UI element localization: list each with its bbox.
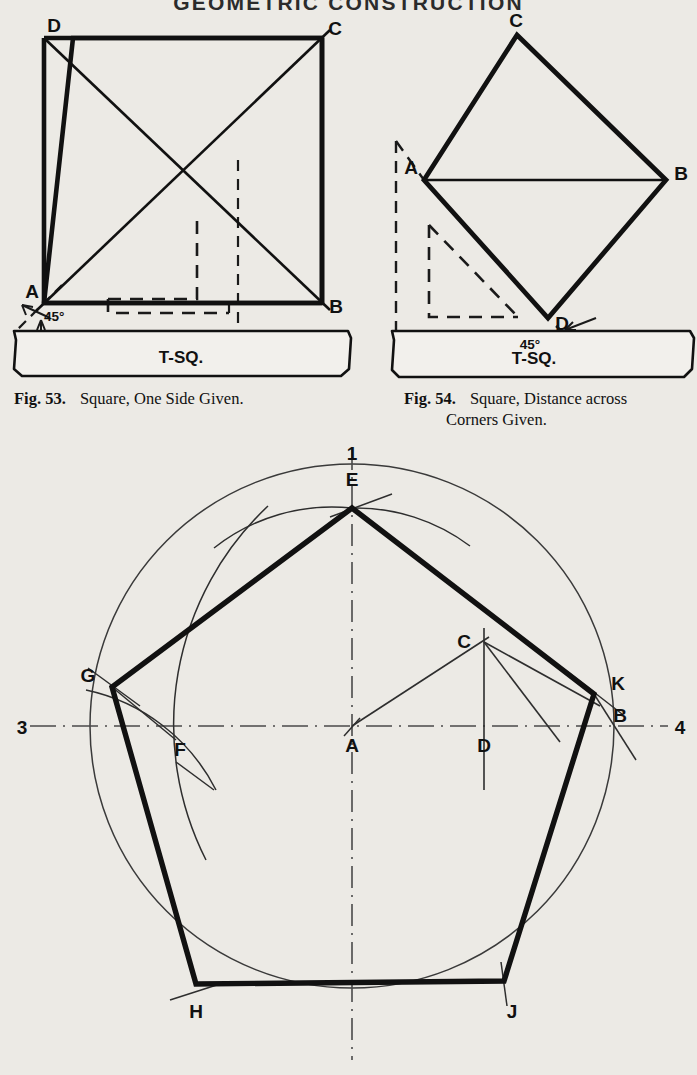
pentagon-label-A: A [345,735,359,756]
pentagon-label-H: H [189,1001,203,1022]
pentagon-label-E: E [346,469,359,490]
pentagon-label-B: B [613,705,627,726]
pentagon-label-G: G [81,665,96,686]
pentagon-axis-label-left: 3 [17,717,28,738]
construction-arc-DF [174,506,268,860]
pentagon-construction-drawing: E G K H J A B C D F 3 4 1 [0,0,697,1075]
pentagon-label-K: K [611,673,625,694]
arc-ticks-G [88,668,176,740]
construction-lines [352,628,600,790]
textbook-page: GEOMETRIC CONSTRUCTION [0,0,697,1075]
construction-arc-CF [86,690,216,790]
pentagon-label-C: C [457,631,471,652]
pentagon-axis-label-right: 4 [675,717,686,738]
pentagon-axis-label-top: 1 [347,443,358,464]
pentagon-label-J: J [507,1001,518,1022]
pentagon-label-D: D [477,735,491,756]
pentagon-label-F: F [174,739,186,760]
